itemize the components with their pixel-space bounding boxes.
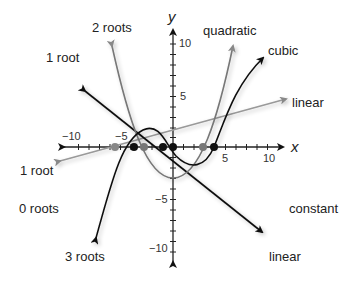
quadratic-root-dot [199, 143, 207, 151]
x-tick-neg10: −10 [62, 131, 81, 142]
label-two-roots: 2 roots [92, 21, 132, 34]
cubic-root-dot [210, 143, 218, 151]
label-linear-bottom: linear [269, 250, 301, 263]
x-tick-5: 5 [222, 153, 228, 164]
label-constant: constant [289, 202, 338, 215]
label-linear-top: linear [292, 96, 324, 109]
label-one-root-top: 1 root [46, 51, 79, 64]
y-tick-neg10: −10 [149, 243, 168, 254]
linear-root-dot [169, 143, 177, 151]
label-three-roots: 3 roots [65, 250, 105, 263]
y-tick-neg5: −5 [155, 194, 168, 205]
y-axis-label: y [168, 9, 176, 24]
linear-root-dot [111, 143, 119, 151]
x-axis-label: x [291, 139, 299, 154]
cubic-root-dot [159, 143, 167, 151]
label-zero-roots: 0 roots [19, 202, 59, 215]
y-tick-5: 5 [180, 91, 186, 102]
label-one-root-left: 1 root [20, 164, 53, 177]
cubic-root-dot [130, 143, 138, 151]
x-tick-10: 10 [263, 153, 275, 164]
quadratic-root-dot [140, 143, 148, 151]
x-tick-neg5: −5 [115, 131, 128, 142]
label-cubic: cubic [268, 44, 298, 57]
label-quadratic: quadratic [203, 24, 256, 37]
y-tick-10: 10 [179, 38, 191, 49]
